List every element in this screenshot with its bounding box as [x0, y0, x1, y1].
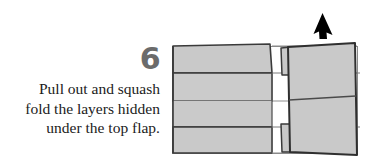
left-panel-bottom-layer: [173, 127, 272, 153]
origami-fold-diagram: [160, 0, 374, 165]
left-panel-top-flap: [173, 44, 272, 73]
caption-line-2: fold the layers hidden: [0, 99, 160, 119]
pull-up-arrow-head: [314, 13, 333, 39]
pull-up-arrow: [314, 13, 333, 39]
caption-line-3: under the top flap.: [0, 118, 160, 138]
caption-line-1: Pull out and squash: [0, 79, 160, 99]
left-panel-middle-layer: [173, 101, 272, 127]
left-panel-upper-layer: [173, 73, 272, 101]
step-number: 6: [0, 44, 166, 74]
origami-instruction-step: 6 Pull out and squash fold the layers hi…: [0, 0, 374, 165]
step-caption: Pull out and squash fold the layers hidd…: [0, 79, 166, 138]
